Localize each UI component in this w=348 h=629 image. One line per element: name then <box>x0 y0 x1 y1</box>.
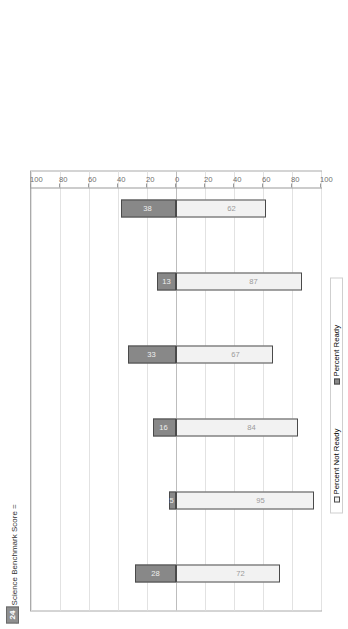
legend-swatch-ready-icon <box>334 378 340 384</box>
bar-group: 595 <box>31 491 321 509</box>
axis-tick-label: 80 <box>291 175 299 184</box>
axis-tick-label: 20 <box>204 175 212 184</box>
legend-swatch-not-ready-icon <box>334 496 340 502</box>
bar-value-label-not-ready: 67 <box>227 349 245 358</box>
bar-group: 3367 <box>31 345 321 363</box>
axis-tick-label: 100 <box>30 175 43 184</box>
axis-tick-label: 0 <box>175 175 179 184</box>
legend-item-percent-not-ready: Percent Not Ready <box>332 428 341 502</box>
gridline <box>147 171 148 610</box>
bar-group: 2872 <box>31 564 321 582</box>
bar-segment-percent-not-ready <box>176 491 314 509</box>
legend-label-not-ready: Percent Not Ready <box>332 428 341 494</box>
gridline <box>263 171 264 610</box>
bar-segment-percent-not-ready <box>176 272 302 290</box>
bar-segment-percent-not-ready <box>176 564 280 582</box>
bar-value-label-ready: 38 <box>139 203 157 212</box>
value-axis <box>30 187 322 188</box>
plot-inner: 28725951684336713873862 <box>31 171 321 610</box>
plot-area: 28725951684336713873862 <box>30 170 322 611</box>
axis-tick-label: 40 <box>117 175 125 184</box>
bar-value-label-ready: 28 <box>146 569 164 578</box>
rotated-figure-canvas: ACT Science Benchmark Score = 24 2872595… <box>0 0 348 629</box>
bar-segment-percent-not-ready <box>176 199 266 217</box>
benchmark-label: ACT Science Benchmark Score = <box>10 504 19 623</box>
bar-segment-percent-not-ready <box>176 345 273 363</box>
bar-value-label-not-ready: 84 <box>242 423 260 432</box>
bar-value-label-ready: 16 <box>155 423 173 432</box>
bar-value-label-not-ready: 87 <box>245 276 263 285</box>
chart-page: ACT Science Benchmark Score = 24 2872595… <box>0 0 348 629</box>
gridline <box>118 171 119 610</box>
gridline <box>321 171 322 610</box>
bar-group: 3862 <box>31 199 321 217</box>
gridline <box>292 171 293 610</box>
gridline <box>234 171 235 610</box>
axis-tick-label: 60 <box>88 175 96 184</box>
axis-tick-label: 40 <box>233 175 241 184</box>
bar-value-label-not-ready: 62 <box>222 203 240 212</box>
gridline <box>89 171 90 610</box>
bar-segment-percent-not-ready <box>176 418 298 436</box>
gridline <box>60 171 61 610</box>
axis-tick-label: 20 <box>146 175 154 184</box>
axis-tick-label: 60 <box>262 175 270 184</box>
axis-tick-label: 80 <box>59 175 67 184</box>
bar-value-label-not-ready: 95 <box>252 496 270 505</box>
chart-legend: Percent Not Ready Percent Ready <box>330 277 343 513</box>
benchmark-value-badge: 24 <box>6 606 19 623</box>
axis-tick-label: 100 <box>320 175 333 184</box>
gridline <box>31 171 32 610</box>
bar-value-label-ready: 33 <box>143 349 161 358</box>
legend-item-percent-ready: Percent Ready <box>332 324 341 384</box>
bar-group: 1387 <box>31 272 321 290</box>
gridline <box>205 171 206 610</box>
bar-group: 1684 <box>31 418 321 436</box>
zero-line <box>176 171 177 610</box>
bar-value-label-ready: 13 <box>157 276 175 285</box>
benchmark-callout: ACT Science Benchmark Score = 24 <box>6 182 28 623</box>
bar-value-label-not-ready: 72 <box>231 569 249 578</box>
legend-label-ready: Percent Ready <box>332 324 341 376</box>
